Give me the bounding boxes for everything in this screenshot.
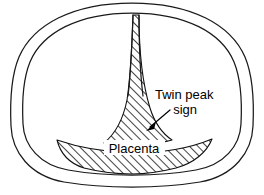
placenta-label: Placenta xyxy=(109,141,160,156)
twin-peak-lambda-wedge xyxy=(104,15,172,146)
twin-peak-label-line1: Twin peak xyxy=(155,87,214,102)
diagram-canvas: Twin peak sign Placenta xyxy=(0,0,264,195)
twin-peak-label-line2: sign xyxy=(173,102,197,117)
twin-peak-sign-diagram: Twin peak sign Placenta xyxy=(0,0,264,195)
